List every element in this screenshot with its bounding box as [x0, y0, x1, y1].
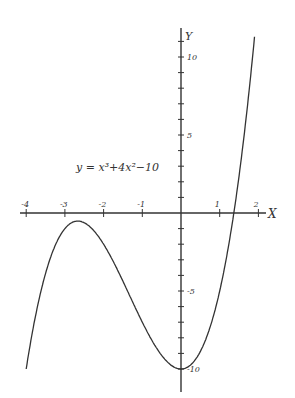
x-ticks: -4-3-2-112: [21, 200, 258, 217]
svg-text:5: 5: [187, 131, 192, 140]
svg-text:1: 1: [215, 200, 220, 209]
svg-text:-4: -4: [21, 200, 29, 209]
y-axis-label: Y: [185, 30, 194, 43]
svg-text:-3: -3: [60, 200, 68, 209]
equation-label: y = x³+4x²−10: [75, 161, 159, 174]
svg-text:-2: -2: [99, 200, 107, 209]
svg-text:-1: -1: [137, 200, 145, 209]
svg-text:2: 2: [252, 200, 258, 209]
function-plot: -4-3-2-112 105-5-10 X Y y = x³+4x²−10: [0, 0, 295, 398]
x-axis-label: X: [267, 207, 277, 221]
svg-text:-5: -5: [187, 287, 195, 296]
svg-text:10: 10: [187, 53, 197, 62]
